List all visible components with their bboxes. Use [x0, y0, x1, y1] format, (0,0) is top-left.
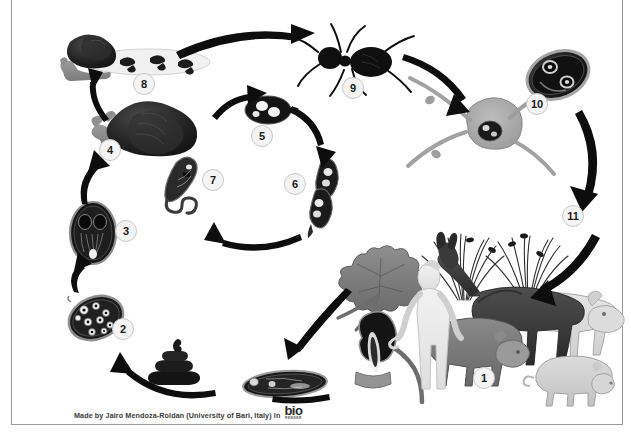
diagram-page: 1 2 3 4 5 6 7 8 9 10 11 Made by Jairo Me… — [0, 0, 631, 446]
snail-with-slime-trail-illustration — [60, 34, 116, 81]
liver-gallbladder-illustration — [338, 246, 424, 402]
life-cycle-artwork — [0, 0, 631, 446]
stage-badge-5[interactable]: 5 — [251, 125, 273, 147]
redia-illustration — [308, 159, 338, 238]
stage-badge-3[interactable]: 3 — [115, 220, 137, 242]
arrow-ant-to-brain — [402, 54, 470, 116]
stage-badge-8[interactable]: 8 — [133, 73, 155, 95]
feces-illustration — [148, 339, 200, 385]
biorender-logo: bio RENDER — [284, 405, 302, 420]
miracidium-illustration — [70, 202, 116, 264]
stage-badge-1[interactable]: 1 — [473, 367, 495, 389]
arrow-sporocyst-to-redia — [289, 106, 336, 168]
stage-badge-7[interactable]: 7 — [202, 169, 224, 191]
arrow-redia-to-cercaria — [204, 222, 302, 251]
pig-illustration — [524, 356, 615, 406]
biorender-logo-sub: RENDER — [285, 417, 302, 420]
stage-badge-9[interactable]: 9 — [342, 77, 364, 99]
stage-badge-4[interactable]: 4 — [99, 139, 121, 161]
cercaria-illustration — [165, 157, 197, 213]
credit-text: Made by Jairo Mendoza-Roldan (University… — [74, 411, 280, 420]
stage-badge-2[interactable]: 2 — [112, 318, 134, 340]
stage-badge-6[interactable]: 6 — [284, 173, 306, 195]
stage-badge-10[interactable]: 10 — [526, 93, 548, 115]
stage-badge-11[interactable]: 11 — [562, 205, 584, 227]
biorender-logo-main: bio — [284, 405, 302, 417]
adult-fluke-illustration — [242, 368, 328, 400]
arrow-brain-to-grass — [570, 110, 598, 212]
life-cycle-canvas: 1 2 3 4 5 6 7 8 9 10 11 Made by Jairo Me… — [0, 0, 631, 446]
credit-line: Made by Jairo Mendoza-Roldan (University… — [74, 405, 302, 420]
arrow-liver-to-fluke — [284, 288, 352, 360]
